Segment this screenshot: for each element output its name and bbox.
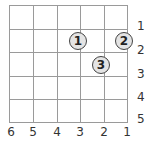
column-label: 4 [53,126,61,138]
row-label: 1 [137,20,145,32]
row-label: 4 [137,91,145,103]
grid-line [33,6,34,122]
grid [9,5,128,123]
marker-3: 3 [92,56,110,74]
column-label: 1 [123,126,131,138]
grid-line [10,76,127,77]
column-label: 6 [7,126,15,138]
grid-line [80,6,81,122]
column-label: 2 [100,126,108,138]
grid-line [10,99,127,100]
marker-1: 1 [69,32,87,50]
marker-2: 2 [115,32,133,50]
row-label: 5 [137,113,145,125]
column-label: 3 [76,126,84,138]
row-label: 2 [137,44,145,56]
column-label: 5 [29,126,37,138]
grid-line [10,52,127,53]
grid-line [10,29,127,30]
grid-line [57,6,58,122]
row-label: 3 [137,68,145,80]
